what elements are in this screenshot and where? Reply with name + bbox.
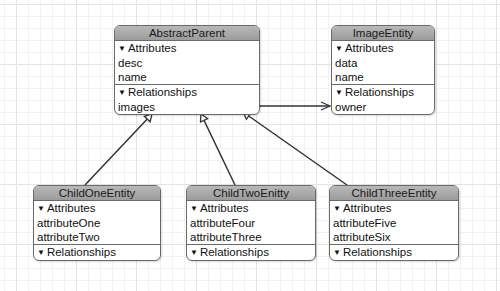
entity-child-one[interactable]: ChildOneEntity ▼Attributes attributeOne … xyxy=(33,185,161,261)
entity-child-three[interactable]: ChildThreeEntity ▼Attributes attributeFi… xyxy=(329,185,459,261)
attributes-section-toggle[interactable]: ▼Attributes xyxy=(187,201,315,216)
relationship-images[interactable]: images xyxy=(115,100,259,114)
disclosure-triangle-icon: ▼ xyxy=(190,204,198,213)
attribute-name[interactable]: name xyxy=(115,70,259,84)
inheritance-child-one xyxy=(85,114,152,185)
attribute-four[interactable]: attributeFour xyxy=(187,216,315,230)
attribute-six[interactable]: attributeSix xyxy=(330,230,458,244)
relationships-section-toggle[interactable]: ▼Relationships xyxy=(34,245,160,260)
disclosure-triangle-icon: ▼ xyxy=(335,88,343,97)
attribute-one[interactable]: attributeOne xyxy=(34,216,160,230)
relationships-section-toggle[interactable]: ▼Relationships xyxy=(187,245,315,260)
attributes-section-toggle[interactable]: ▼Attributes xyxy=(332,41,434,56)
entity-child-two[interactable]: ChildTwoEnitty ▼Attributes attributeFour… xyxy=(186,185,316,261)
disclosure-triangle-icon: ▼ xyxy=(333,248,341,257)
attribute-desc[interactable]: desc xyxy=(115,56,259,70)
disclosure-triangle-icon: ▼ xyxy=(335,44,343,53)
disclosure-triangle-icon: ▼ xyxy=(37,248,45,257)
entity-title: ChildOneEntity xyxy=(34,186,160,201)
entity-abstract-parent[interactable]: AbstractParent ▼Attributes desc name ▼Re… xyxy=(114,25,260,115)
entity-image-entity[interactable]: ImageEntity ▼Attributes data name ▼Relat… xyxy=(331,25,435,115)
disclosure-triangle-icon: ▼ xyxy=(118,44,126,53)
attribute-name[interactable]: name xyxy=(332,70,434,84)
relationship-owner[interactable]: owner xyxy=(332,100,434,114)
entity-title: ImageEntity xyxy=(332,26,434,41)
disclosure-triangle-icon: ▼ xyxy=(190,248,198,257)
attributes-section-toggle[interactable]: ▼Attributes xyxy=(330,201,458,216)
disclosure-triangle-icon: ▼ xyxy=(118,88,126,97)
attribute-data[interactable]: data xyxy=(332,56,434,70)
inheritance-child-three xyxy=(243,112,347,185)
relationships-section-toggle[interactable]: ▼Relationships xyxy=(330,245,458,260)
relationships-section-toggle[interactable]: ▼Relationships xyxy=(115,85,259,100)
attributes-section-toggle[interactable]: ▼Attributes xyxy=(115,41,259,56)
attribute-five[interactable]: attributeFive xyxy=(330,216,458,230)
disclosure-triangle-icon: ▼ xyxy=(37,204,45,213)
inheritance-child-two xyxy=(201,114,235,185)
entity-title: ChildThreeEntity xyxy=(330,186,458,201)
relationships-section-toggle[interactable]: ▼Relationships xyxy=(332,85,434,100)
attribute-two[interactable]: attributeTwo xyxy=(34,230,160,244)
disclosure-triangle-icon: ▼ xyxy=(333,204,341,213)
entity-title: ChildTwoEnitty xyxy=(187,186,315,201)
entity-title: AbstractParent xyxy=(115,26,259,41)
attributes-section-toggle[interactable]: ▼Attributes xyxy=(34,201,160,216)
attribute-three[interactable]: attributeThree xyxy=(187,230,315,244)
